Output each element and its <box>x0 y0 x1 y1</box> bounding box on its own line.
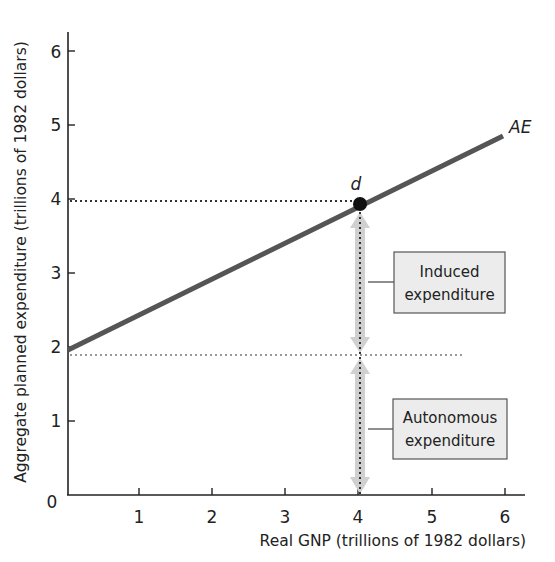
svg-text:3: 3 <box>280 507 291 527</box>
ae-line <box>68 136 503 350</box>
point-d <box>353 197 367 211</box>
ae-chart: 0 1 2 3 4 5 6 1 2 3 4 5 6 Real GNP (tril… <box>0 0 555 562</box>
svg-text:expenditure: expenditure <box>404 286 494 304</box>
svg-text:1: 1 <box>51 411 62 431</box>
y-axis-title: Aggregate planned expenditure (trillions… <box>12 41 30 483</box>
svg-text:5: 5 <box>51 115 62 135</box>
y-ticks <box>68 51 75 421</box>
svg-text:Autonomous: Autonomous <box>403 409 498 427</box>
autonomous-expenditure-box: Autonomous expenditure <box>393 399 507 459</box>
x-ticks <box>139 488 505 495</box>
svg-text:2: 2 <box>51 337 62 357</box>
origin-label: 0 <box>47 492 58 512</box>
svg-text:5: 5 <box>427 507 438 527</box>
ae-label: AE <box>508 117 532 137</box>
svg-text:2: 2 <box>207 507 218 527</box>
svg-text:3: 3 <box>51 263 62 283</box>
induced-expenditure-box: Induced expenditure <box>394 252 505 313</box>
svg-text:4: 4 <box>51 189 62 209</box>
y-tick-labels: 1 2 3 4 5 6 <box>51 42 62 431</box>
svg-text:6: 6 <box>51 42 62 62</box>
svg-text:4: 4 <box>353 507 364 527</box>
svg-text:6: 6 <box>500 507 511 527</box>
svg-text:expenditure: expenditure <box>405 432 495 450</box>
x-axis-title: Real GNP (trillions of 1982 dollars) <box>260 532 526 550</box>
svg-text:Induced: Induced <box>420 263 480 281</box>
x-tick-labels: 1 2 3 4 5 6 <box>134 507 511 527</box>
svg-text:1: 1 <box>134 507 145 527</box>
point-d-label: d <box>351 174 362 194</box>
